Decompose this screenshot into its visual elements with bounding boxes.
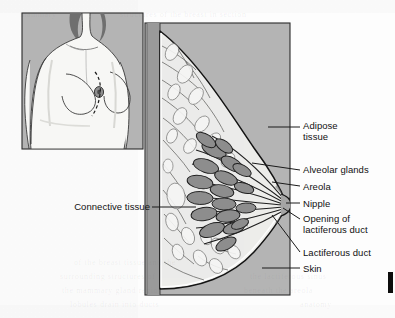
bleedthrough-line: beneath the areola [244, 286, 313, 295]
label-alveolar-glands: Alveolar glands [303, 165, 369, 176]
label-connective-tissue: Connective tissue [62, 202, 150, 213]
bleedthrough-line: anatomy [300, 300, 332, 309]
label-lactiferous-duct: Lactiferous duct [303, 248, 371, 259]
breast-anatomy-figure: Adipose tissue Alveolar glands Areola Ni… [0, 0, 395, 318]
label-areola: Areola [303, 182, 331, 193]
bleedthrough-line: surrounding structures of [60, 272, 155, 281]
bleedthrough-line: the mammary gland region [62, 286, 163, 295]
anatomy-illustration [0, 0, 395, 318]
torso-inset-panel [22, 13, 143, 149]
bleedthrough-line: of the breast tissue and the [74, 258, 176, 267]
bleedthrough-line: lobules drain into ducts [70, 300, 159, 309]
label-nipple: Nipple [303, 199, 330, 210]
scan-edge-artifact [388, 272, 393, 293]
label-opening-of-lactiferous-duct: Opening of lactiferous duct [303, 214, 368, 235]
bleedthrough-line: mammary [20, 10, 57, 19]
label-adipose-tissue: Adipose tissue [303, 121, 338, 142]
sagittal-section-panel [145, 23, 294, 295]
bleedthrough-line: structures of the breast in section [120, 10, 247, 19]
bleedthrough-line: the lactiferous sinus [250, 272, 327, 281]
